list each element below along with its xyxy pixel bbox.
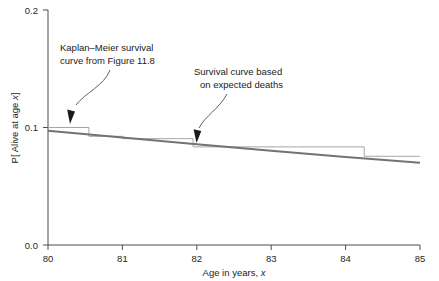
- annotation-kaplan-meier-leader: [76, 70, 110, 105]
- y-axis-title-text: P[ Alive at age: [9, 100, 20, 163]
- x-tick-label-85: 85: [415, 253, 426, 264]
- x-tick-label-80: 80: [43, 253, 54, 264]
- kaplan-meier-step-curve: [48, 128, 420, 157]
- x-axis-title-variable: x: [260, 267, 267, 278]
- y-axis-title-suffix: ]: [9, 93, 20, 96]
- annotation-kaplan-meier-line2: curve from Figure 11.8: [60, 55, 155, 66]
- annotation-kaplan-meier: Kaplan–Meier survival curve from Figure …: [60, 42, 155, 124]
- x-tick-label-81: 81: [117, 253, 128, 264]
- x-tick-label-84: 84: [340, 253, 351, 264]
- annotation-expected-deaths-line1: Survival curve based: [194, 66, 282, 77]
- annotation-expected-deaths-leader: [199, 94, 227, 128]
- annotation-expected-deaths-arrowhead: [194, 129, 202, 143]
- y-tick-label-0.2: 0.2: [25, 5, 38, 16]
- y-tick-label-0.1: 0.1: [25, 122, 38, 133]
- y-tick-labels: 0.2 0.1 0.0: [25, 5, 38, 251]
- survival-curve-figure: 0.2 0.1 0.0 80 81 82 83 84 85 Age in yea…: [0, 0, 439, 281]
- x-axis-title-text: Age in years,: [203, 267, 261, 278]
- annotation-kaplan-meier-arrowhead: [67, 110, 75, 125]
- y-tick-label-0.0: 0.0: [25, 240, 38, 251]
- x-axis-title: Age in years, x: [203, 267, 267, 278]
- annotation-kaplan-meier-line1: Kaplan–Meier survival: [60, 42, 153, 53]
- y-axis-title: P[ Alive at age x]: [9, 93, 20, 164]
- x-tick-label-82: 82: [192, 253, 203, 264]
- annotation-expected-deaths-line2: on expected deaths: [200, 79, 283, 90]
- annotation-expected-deaths: Survival curve based on expected deaths: [194, 66, 284, 143]
- x-tick-label-83: 83: [266, 253, 277, 264]
- chart-svg: 0.2 0.1 0.0 80 81 82 83 84 85 Age in yea…: [0, 0, 439, 281]
- x-tick-labels: 80 81 82 83 84 85: [43, 253, 426, 264]
